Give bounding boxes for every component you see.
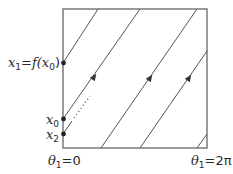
label-theta-two-pi: θ1=2π	[191, 153, 232, 170]
trajectory-d	[140, 51, 207, 148]
trajectory-e	[197, 134, 207, 148]
point-x2	[61, 132, 66, 137]
trajectory-a	[63, 9, 98, 63]
label-x1-eq-f-x0: x1=f(x0)	[8, 55, 60, 72]
point-x0	[61, 117, 66, 122]
label-theta-zero: θ1=0	[48, 153, 81, 170]
trajectory-b	[63, 9, 140, 119]
phase-diagram: x1=f(x0) x0 x2 θ1=0 θ1=2π	[0, 0, 233, 174]
point-x1	[61, 61, 66, 66]
arrow-icon	[90, 72, 99, 81]
label-x2: x2	[46, 127, 59, 144]
